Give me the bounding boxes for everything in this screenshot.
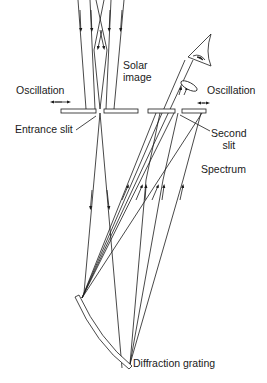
second-slit [148, 109, 206, 113]
label-entrance-slit: Entrance slit [15, 123, 73, 135]
label-spectrum: Spectrum [201, 163, 246, 175]
entrance-slit [61, 109, 138, 113]
spectroheliograph-diagram [0, 0, 267, 383]
label-image-line2: image [123, 71, 152, 83]
rays-to-grating [84, 113, 122, 368]
label-diffraction-grating: Diffraction grating [133, 357, 215, 369]
eye-icon [188, 34, 211, 66]
label-second-slit: Second slit [211, 127, 247, 151]
label-oscillation-left: Oscillation [16, 84, 64, 96]
label-solar-line1: Solar [123, 59, 152, 71]
label-second-line1: Second [211, 127, 247, 139]
label-slit-line2: slit [211, 139, 247, 151]
diffraction-grating [75, 295, 132, 369]
second-slit-leader [180, 115, 210, 131]
label-oscillation-right: Oscillation [207, 84, 255, 96]
entrance-slit-leader [76, 116, 96, 130]
label-solar-image: Solar image [123, 59, 152, 83]
incoming-rays [78, 0, 124, 109]
eyepiece-lens-icon [179, 79, 198, 94]
